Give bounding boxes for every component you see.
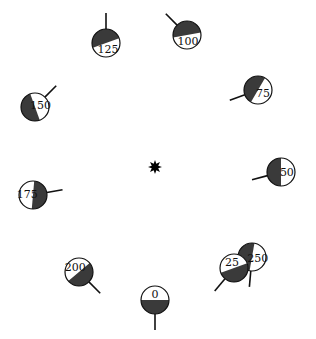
star-shape (148, 160, 162, 174)
dial-label: 100 (178, 35, 199, 48)
dial-diagram: 1251007515050175200250250 (0, 0, 316, 339)
dial-label: 250 (247, 252, 268, 265)
dial-label: 50 (280, 166, 294, 179)
dial-label: 200 (65, 261, 86, 274)
dial-label: 175 (17, 188, 38, 201)
center-star-icon (148, 160, 162, 174)
dial-label: 125 (98, 43, 119, 56)
dial-label: 75 (256, 87, 270, 100)
dial-label: 25 (225, 256, 239, 269)
dial-label: 0 (152, 288, 159, 301)
dial-label: 150 (30, 99, 51, 112)
